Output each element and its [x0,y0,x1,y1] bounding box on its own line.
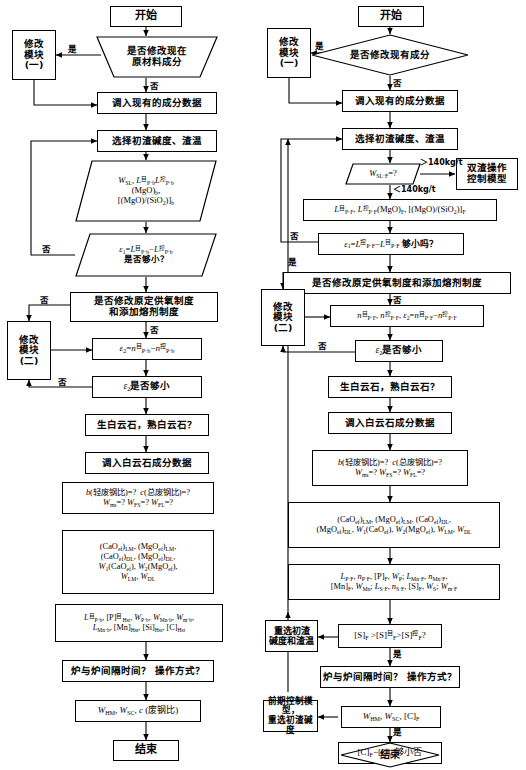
right-modify-module-1: 修改模块(一) [267,28,311,78]
right-epsilon1-decision-label: ε1=L控P·F−L目P·F 够小吗？ [319,239,463,250]
right-edge-label-yes-3: 是 [393,650,402,659]
left-load-composition-data-label: 调入现有的成分数据 [98,98,216,109]
left-start-label: 开始 [111,10,181,22]
left-lp-phosphorus-outputs-label: L目P·b, [P]目Hst, WP·b, WMn·b, Wm·b,LMn·b,… [56,613,222,633]
left-edge-label-no-2: 否 [42,245,51,254]
right-modify-module-2: 修改模块(二) [261,289,305,346]
right-epsilon1-decision: ε1=L控P·F−L目P·F 够小吗？ [318,233,464,255]
left-epsilon2-decision: ε2是否够小 [92,376,202,398]
left-decision-modify-oxygen-flux: 是否修改原定供氧制度和添加熔剂制度 [70,292,218,322]
right-load-dolomite-data: 调入白云石成分数据 [328,412,452,434]
right-load-composition-data: 调入现有的成分数据 [342,90,458,112]
right-lpf-params-label: L目P·F, L控P·F(MgO)F, [(MgO)/(SiO2)]F [304,205,496,216]
right-cao-mgo-calculations: (CaOef)LM, (MgOef)LM, (CaOef)DL,(MgOef)D… [288,502,500,548]
right-load-dolomite-data-label: 调入白云石成分数据 [329,418,451,429]
right-wsl-decision-label: WSL·F=? [345,169,421,179]
right-lpf-mn-s-outputs: LP·F, nP·F, [P]F, WP; LMn·F, nMn·F,[Mn]F… [288,564,500,600]
left-select-slag-basicity-temp: 选择初渣碱度、渣温 [97,130,217,152]
left-load-composition-data: 调入现有的成分数据 [97,92,217,114]
right-early-control-model: 前期控制模型，重选初渣碱度 [263,700,318,732]
right-decision-modify-composition-label: 是否修改现有成分 [311,50,469,61]
right-whm-wsc-output: WHM, WSC, [C]F [341,706,441,728]
right-wsl-decision: WSL·F=? [345,163,421,185]
left-edge-label-no-3: 否 [40,296,49,305]
right-dolomite-question: 生白云石，熟白云石？ [328,376,452,398]
left-decision-modify-raw-material: 是否修改现在原材料成分 [96,36,218,78]
right-scrap-ratio-inputs-label: b(轻废钢比)=? c(总废钢比)=?Wms=? WFS=? WFL=? [313,458,467,477]
right-dolomite-question-label: 生白云石，熟白云石？ [329,382,451,393]
left-load-dolomite-data: 调入白云石成分数据 [85,452,209,474]
right-reselect-slag-label: 重选初渣碱度和渣温 [266,626,317,646]
left-epsilon2-formula-label: ε2=n目P·b−n控P·b [93,343,201,355]
left-dolomite-question: 生白云石，熟白云石？ [85,414,209,436]
left-modify-module-1: 修改模块(一) [12,30,56,80]
right-edge-label-no-4: 否 [318,342,327,351]
left-scrap-ratio-inputs-label: b(轻废钢比)=? c(总废钢比)=?Wms=? WFS=? WFL=? [63,488,213,507]
left-whm-wsc-output-label: WHM, WSC, c (废钢比) [76,705,200,717]
left-slag-params-io-label: WSL, L目P·bL控P·b(MgO)b,[(MgO)/(SiO2)]b [75,176,217,207]
right-edge-label-yes-2: 是 [288,258,297,267]
left-edge-label-no-5: 否 [58,378,67,387]
left-modify-module-1-label: 修改模块(一) [13,39,55,71]
left-edge-label-yes-1: 是 [68,45,77,54]
right-edge-label-lt-140: ＜140kg/t [393,186,436,194]
right-start-label: 开始 [359,10,423,22]
right-modify-module-2-label: 修改模块(二) [262,302,304,334]
left-furnace-interval-question-label: 炉与炉间隔时间？ 操作方式？ [63,666,213,677]
left-end-node: 结束 [113,740,179,761]
right-furnace-interval-question-label: 炉与炉间隔时间？ 操作方式？ [321,672,459,683]
right-furnace-interval-question: 炉与炉间隔时间？ 操作方式？ [320,666,460,688]
left-scrap-ratio-inputs: b(轻废钢比)=? c(总废钢比)=?Wms=? WFS=? WFL=? [62,482,214,514]
left-edge-label-no-1: 否 [150,82,159,91]
right-early-control-model-label: 前期控制模型，重选初渣碱度 [264,697,317,736]
right-select-slag-basicity-temp-label: 选择初渣碱度、渣温 [343,134,457,145]
right-npf-epsilon2-formula: n目P·F, n控P·F, ε2=n目P·F−n控P·F [330,305,484,327]
left-cao-mgo-calculations-label: (CaOef)LM, (MgOef)LM,(CaOef)DL, (MgOef)D… [63,542,213,582]
left-end-label: 结束 [114,744,178,756]
right-terminal-end-label: 结束 [340,749,440,760]
right-whm-wsc-output-label: WHM, WSC, [C]F [342,711,440,723]
left-select-slag-basicity-temp-label: 选择初渣碱度、渣温 [98,136,216,147]
right-epsilon2-decision-label: ε2是否够小 [356,345,442,356]
right-decision-modify-composition: 是否修改现有成分 [311,34,469,76]
right-cao-mgo-calculations-label: (CaOef)LM, (MgOef)LM, (CaOef)DL,(MgOef)D… [289,515,499,535]
right-npf-epsilon2-formula-label: n目P·F, n控P·F, ε2=n目P·F−n控P·F [331,311,483,322]
right-lpf-params: L目P·F, L控P·F(MgO)F, [(MgO)/(SiO2)]F [303,199,497,221]
flowchart-canvas: 开始 是否修改现在原材料成分 修改模块(一) 调入现有的成分数据 选择初渣碱度、… [0,0,526,770]
right-sulfur-decision-label: [S]F >[S]目F>[S]控F? [339,630,441,642]
left-edge-label-no-4: 否 [150,326,159,335]
right-edge-label-no-2: 否 [290,232,299,241]
left-epsilon2-decision-label: ε2是否够小 [93,381,201,392]
left-slag-params-io: WSL, L目P·bL控P·b(MgO)b,[(MgO)/(SiO2)]b [75,160,217,222]
right-modify-module-1-label: 修改模块(一) [268,37,310,69]
left-epsilon1-decision-label: ε1=L目P·b−L控P·b是否够小？ [75,245,217,265]
left-decision-modify-raw-material-label: 是否修改现在原材料成分 [96,46,218,67]
right-terminal-end: 结束 [340,742,440,768]
right-epsilon2-decision: ε2是否够小 [355,340,443,362]
right-select-slag-basicity-temp: 选择初渣碱度、渣温 [342,128,458,150]
right-scrap-ratio-inputs: b(轻废钢比)=? c(总废钢比)=?Wms=? WFS=? WFL=? [312,450,468,486]
left-cao-mgo-calculations: (CaOef)LM, (MgOef)LM,(CaOef)DL, (MgOef)D… [62,530,214,594]
right-decision-modify-oxygen-flux: 是否修改原定供氧制度和添加熔剂制度 [283,272,511,294]
right-reselect-slag: 重选初渣碱度和渣温 [265,620,318,652]
left-whm-wsc-output: WHM, WSC, c (废钢比) [75,700,201,722]
right-edge-label-no-3: 否 [393,296,402,305]
left-dolomite-question-label: 生白云石，熟白云石？ [86,420,208,431]
right-decision-modify-oxygen-flux-label: 是否修改原定供氧制度和添加熔剂制度 [284,278,510,289]
left-modify-module-2-label: 修改模块(二) [8,335,50,367]
left-furnace-interval-question: 炉与炉间隔时间？ 操作方式？ [62,660,214,682]
left-epsilon2-formula: ε2=n目P·b−n控P·b [92,338,202,360]
right-dual-slag-model: 双渣操作控制模型 [456,158,518,190]
right-load-composition-data-label: 调入现有的成分数据 [343,96,457,107]
left-start-node: 开始 [110,6,182,27]
right-lpf-mn-s-outputs-label: LP·F, nP·F, [P]F, WP; LMn·F, nMn·F,[Mn]F… [289,572,499,592]
left-modify-module-2: 修改模块(二) [7,321,51,380]
right-dual-slag-model-label: 双渣操作控制模型 [457,163,517,184]
left-epsilon1-decision: ε1=L目P·b−L控P·b是否够小？ [75,233,217,277]
right-edge-label-no-1: 否 [393,79,402,88]
right-sulfur-decision: [S]F >[S]目F>[S]控F? [338,624,442,648]
left-lp-phosphorus-outputs: L目P·b, [P]目Hst, WP·b, WMn·b, Wm·b,LMn·b,… [55,604,223,642]
right-edge-label-yes-4: 是 [393,728,402,737]
left-decision-modify-oxygen-flux-label: 是否修改原定供氧制度和添加熔剂制度 [71,296,217,317]
right-start-node: 开始 [358,6,424,27]
